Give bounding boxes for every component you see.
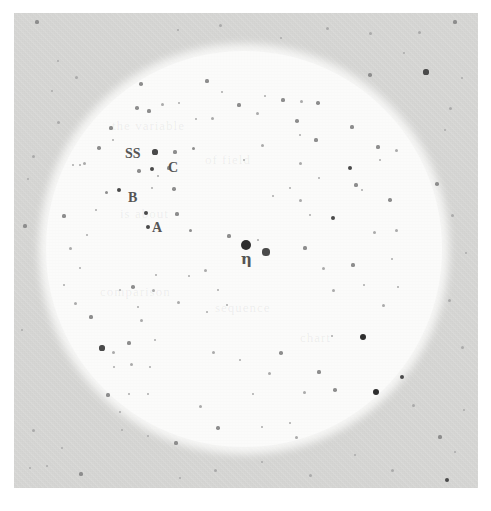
star-point <box>214 469 217 472</box>
star-point <box>74 302 77 305</box>
star-point <box>279 351 283 355</box>
star-point <box>192 147 195 150</box>
star-point <box>448 299 451 302</box>
star-point <box>418 31 421 34</box>
star-point <box>62 214 65 217</box>
star-point <box>333 388 337 392</box>
star-point <box>32 429 35 432</box>
star-point <box>412 404 415 407</box>
star-point <box>453 20 456 23</box>
star-point <box>438 435 441 438</box>
star-point <box>97 146 100 149</box>
star-point <box>351 263 354 266</box>
star-point <box>127 341 130 344</box>
star-point <box>461 346 464 349</box>
star-point <box>35 20 38 23</box>
star-point <box>219 24 222 27</box>
star-point <box>199 405 202 408</box>
star-point <box>395 229 398 232</box>
star-point <box>299 162 302 165</box>
star-point <box>83 162 86 165</box>
star-point <box>137 169 140 172</box>
star-point <box>152 289 155 292</box>
star-point <box>79 472 82 475</box>
star-point <box>281 98 284 101</box>
star-point <box>189 229 192 232</box>
star-point <box>388 198 391 201</box>
star-label-a: A <box>152 221 162 235</box>
star-point <box>139 82 143 86</box>
star-point <box>177 301 180 304</box>
star-point <box>382 304 385 307</box>
star-point <box>174 441 177 444</box>
star-label-eta: η <box>241 252 252 267</box>
star-point <box>314 138 317 141</box>
star-point <box>237 103 240 106</box>
star-point <box>451 214 454 217</box>
star-point <box>204 269 207 272</box>
star-point <box>348 166 352 170</box>
star-point <box>295 119 299 123</box>
star-point <box>316 101 319 104</box>
star-label-c: C <box>168 161 178 175</box>
star-point <box>161 103 164 106</box>
star-point <box>391 469 394 472</box>
star-point <box>106 393 109 396</box>
star-point <box>317 370 320 373</box>
star-point <box>147 109 150 112</box>
star-point <box>295 436 298 439</box>
star-point <box>152 149 157 154</box>
star-point <box>300 100 303 103</box>
star-point <box>423 69 428 74</box>
star-point <box>172 187 175 190</box>
finder-chart: the variableof fieldis aboutcomparisonse… <box>0 0 491 511</box>
star-point <box>256 112 259 115</box>
star-point <box>322 267 325 270</box>
star-point <box>326 27 329 30</box>
star-point <box>75 76 78 79</box>
star-point <box>212 351 215 354</box>
star-point <box>227 234 230 237</box>
star-point <box>150 167 154 171</box>
star-point <box>241 240 251 250</box>
star-point <box>303 391 306 394</box>
star-point <box>105 191 108 194</box>
star-point <box>332 289 335 292</box>
star-point <box>395 149 398 152</box>
star-point <box>211 117 214 120</box>
star-point <box>23 224 26 227</box>
star-point <box>216 426 219 429</box>
star-point <box>140 319 143 322</box>
star-point <box>373 231 376 234</box>
star-label-ss: SS <box>125 147 141 161</box>
star-point <box>435 182 439 186</box>
star-point <box>303 246 306 249</box>
star-point <box>268 372 271 375</box>
star-point <box>112 351 115 354</box>
star-point <box>350 125 353 128</box>
star-point <box>376 145 379 148</box>
star-point <box>109 126 112 129</box>
star-point <box>99 345 104 350</box>
star-point <box>130 363 133 366</box>
star-point <box>262 248 269 255</box>
star-point <box>131 285 135 289</box>
star-point <box>449 107 452 110</box>
star-point <box>205 79 208 82</box>
star-point <box>299 199 302 202</box>
star-point <box>69 247 72 250</box>
star-point <box>261 144 264 147</box>
star-label-b: B <box>128 191 137 205</box>
star-point <box>89 315 92 318</box>
star-point <box>32 155 35 158</box>
star-point <box>175 212 178 215</box>
star-point <box>368 73 372 77</box>
star-point <box>354 183 357 186</box>
star-point <box>331 216 335 220</box>
star-point <box>57 121 60 124</box>
star-point <box>369 32 372 35</box>
star-point <box>135 106 139 110</box>
star-point <box>309 474 312 477</box>
star-point <box>144 211 148 215</box>
star-point <box>173 150 176 153</box>
